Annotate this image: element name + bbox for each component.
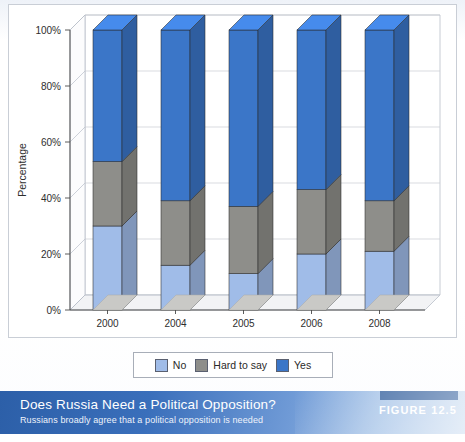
svg-text:Percentage: Percentage	[16, 143, 28, 197]
svg-text:20%: 20%	[41, 249, 61, 260]
figure-caption-bar: Does Russia Need a Political Opposition?…	[0, 391, 465, 434]
legend-swatch-yes	[276, 359, 289, 372]
svg-text:60%: 60%	[41, 137, 61, 148]
svg-text:100%: 100%	[35, 25, 61, 36]
legend-label-hard-to-say: Hard to say	[213, 359, 267, 371]
svg-text:0%: 0%	[47, 305, 62, 316]
chart-legend: No Hard to say Yes	[133, 352, 333, 378]
legend-swatch-no	[155, 359, 168, 372]
svg-text:2008: 2008	[368, 318, 391, 329]
stacked-bar-chart-svg: 0%20%40%60%80%100%20002004200520062008Pe…	[0, 0, 465, 345]
figure-number-tab	[380, 391, 458, 400]
svg-text:2000: 2000	[96, 318, 119, 329]
page-bottom-strip	[0, 434, 465, 442]
svg-text:40%: 40%	[41, 193, 61, 204]
legend-item-yes[interactable]: Yes	[276, 359, 311, 372]
figure-number-label: FIGURE 12.5	[379, 404, 457, 416]
legend-item-hard-to-say[interactable]: Hard to say	[195, 359, 267, 372]
legend-label-no: No	[173, 359, 186, 371]
svg-text:2004: 2004	[164, 318, 187, 329]
svg-text:2006: 2006	[300, 318, 323, 329]
svg-text:80%: 80%	[41, 81, 61, 92]
figure-subtitle: Russians broadly agree that a political …	[20, 415, 263, 425]
legend-label-yes: Yes	[294, 359, 311, 371]
figure-page: 0%20%40%60%80%100%20002004200520062008Pe…	[0, 0, 465, 442]
legend-item-no[interactable]: No	[155, 359, 186, 372]
svg-text:2005: 2005	[232, 318, 255, 329]
chart-area: 0%20%40%60%80%100%20002004200520062008Pe…	[0, 0, 465, 345]
figure-title: Does Russia Need a Political Opposition?	[20, 397, 276, 412]
legend-swatch-hard-to-say	[195, 359, 208, 372]
